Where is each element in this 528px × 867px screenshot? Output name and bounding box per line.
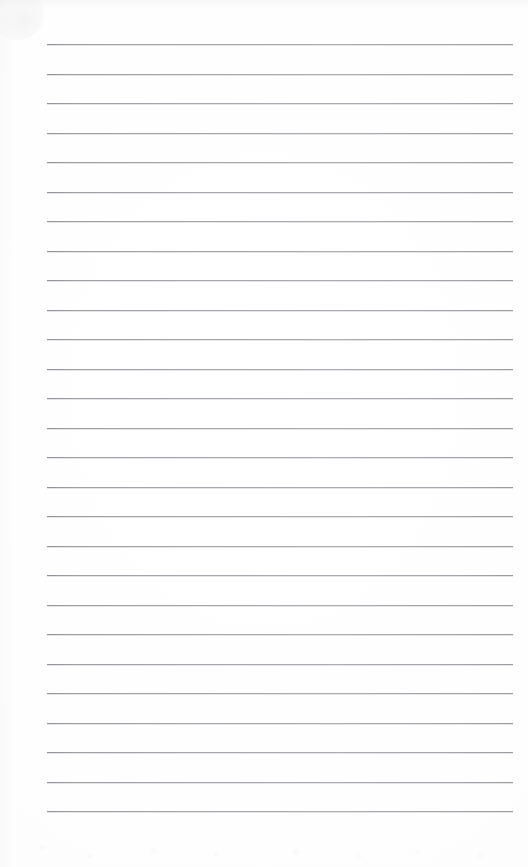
rule-line: [47, 310, 513, 311]
rule-line: [47, 516, 513, 517]
rule-line: [47, 339, 513, 340]
rule-line: [47, 546, 513, 547]
rule-line: [47, 634, 513, 635]
rule-line: [47, 664, 513, 665]
rule-line: [47, 251, 513, 252]
rule-line: [47, 162, 513, 163]
ruled-lines-group: [0, 0, 528, 867]
rule-line: [47, 74, 513, 75]
rule-line: [47, 575, 513, 576]
rule-line: [47, 487, 513, 488]
rule-line: [47, 369, 513, 370]
scanned-page: [0, 0, 528, 867]
rule-line: [47, 428, 513, 429]
rule-line: [47, 133, 513, 134]
rule-line: [47, 811, 513, 812]
rule-line: [47, 752, 513, 753]
rule-line: [47, 398, 513, 399]
rule-line: [47, 103, 513, 104]
rule-line: [47, 457, 513, 458]
rule-line: [47, 192, 513, 193]
rule-line: [47, 723, 513, 724]
rule-line: [47, 605, 513, 606]
rule-line: [47, 782, 513, 783]
rule-line: [47, 693, 513, 694]
rule-line: [47, 280, 513, 281]
rule-line: [47, 44, 513, 45]
rule-line: [47, 221, 513, 222]
